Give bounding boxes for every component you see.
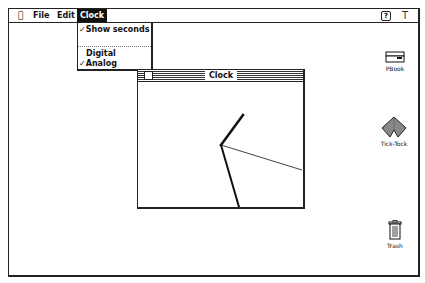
minute-hand [221, 145, 239, 207]
apple-icon[interactable]:  [18, 9, 23, 22]
desktop:  File Edit Clock ? T ✓Show seconds Digi… [8, 8, 420, 277]
second-hand [221, 145, 302, 170]
analog-clock-face [138, 82, 303, 207]
window-title-bar[interactable]: Clock [138, 70, 303, 82]
menu-item-digital[interactable]: Digital [86, 49, 116, 59]
help-icon[interactable]: ? [381, 11, 391, 21]
window-title: Clock [205, 70, 237, 81]
desktop-icon-tick-tock[interactable]: Tick-Tock [374, 116, 414, 147]
menu-item-show-seconds[interactable]: ✓Show seconds [79, 25, 149, 35]
trash-icon [388, 220, 402, 240]
menu-edit[interactable]: Edit [54, 9, 78, 22]
diamond-app-icon [381, 116, 407, 138]
hour-hand [221, 115, 243, 145]
clock-menu-dropdown: ✓Show seconds Digital ✓Analog [77, 22, 153, 71]
application-menu-icon[interactable]: T [402, 10, 408, 21]
menu-separator [78, 46, 151, 47]
menu-bar:  File Edit Clock ? T [9, 9, 418, 23]
desktop-icon-trash[interactable]: Trash [380, 220, 410, 249]
checkmark-icon: ✓ [79, 25, 86, 34]
menu-clock[interactable]: Clock [77, 9, 107, 22]
clock-window[interactable]: Clock [137, 69, 305, 209]
checkmark-icon: ✓ [79, 59, 86, 68]
close-box-icon[interactable] [144, 71, 153, 80]
menu-item-analog[interactable]: ✓Analog [79, 59, 117, 69]
desktop-icon-pbook[interactable]: PBook [380, 51, 410, 72]
notebook-icon [385, 51, 405, 63]
menu-file[interactable]: File [30, 9, 52, 22]
